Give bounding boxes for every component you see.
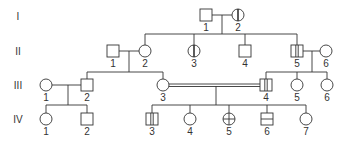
female-circle-icon [320,45,332,57]
female-circle-icon [184,113,196,125]
male-square-icon [260,79,272,91]
individual-number: 2 [142,58,148,69]
individual-number: 3 [160,92,166,103]
individual-number: 2 [84,92,90,103]
female-circle-icon [40,79,52,91]
individual-number: 1 [110,58,116,69]
individual-number: 3 [191,58,197,69]
female-circle-icon [40,113,52,125]
male-square-icon [107,45,119,57]
individual-number: 6 [264,126,270,137]
female-circle-icon [139,45,151,57]
individual-number: 5 [294,92,300,103]
individual-number: 7 [303,126,309,137]
female-circle-icon [223,113,235,125]
individual-number: 6 [323,58,329,69]
generation-label: I [17,11,20,22]
individual-number: 4 [263,92,269,103]
male-square-icon [261,113,273,125]
generation-label: III [14,80,22,91]
individual-number: 6 [324,92,330,103]
individual-number: 5 [226,126,232,137]
individual-number: 4 [187,126,193,137]
individual-number: 1 [43,92,49,103]
female-circle-icon [321,79,333,91]
individual-number: 2 [235,22,241,33]
pedigree-chart: IIIIIIIV121234561234561234567 [0,0,351,147]
female-circle-icon [291,79,303,91]
male-square-icon [239,45,251,57]
male-square-icon [146,113,158,125]
pedigree-lines [0,0,351,147]
individual-number: 2 [84,126,90,137]
male-square-icon [81,113,93,125]
female-circle-icon [188,45,200,57]
generation-label: IV [13,114,22,125]
male-square-icon [291,45,303,57]
male-square-icon [200,9,212,21]
individual-number: 5 [294,58,300,69]
male-square-icon [81,79,93,91]
female-circle-icon [232,9,244,21]
individual-number: 1 [203,22,209,33]
female-circle-icon [300,113,312,125]
individual-number: 4 [242,58,248,69]
female-circle-icon [157,79,169,91]
individual-number: 1 [43,126,49,137]
generation-label: II [15,46,21,57]
individual-number: 3 [149,126,155,137]
